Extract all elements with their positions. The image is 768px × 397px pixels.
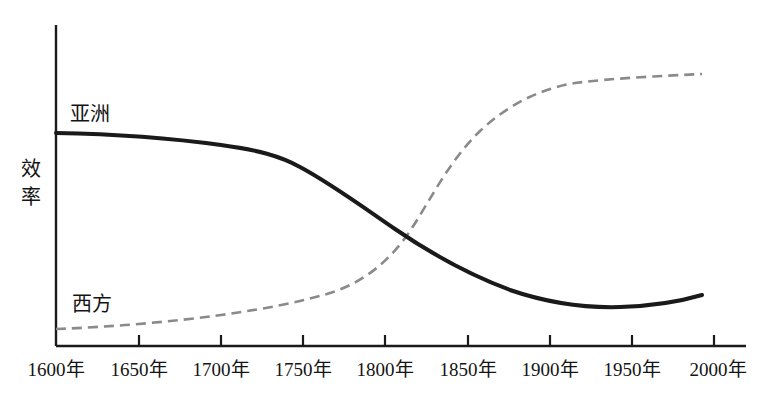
- x-tick-label-1700: 1700年: [181, 354, 261, 381]
- y-axis-label: 效率: [14, 155, 48, 211]
- asia-series-label: 亚洲: [70, 98, 110, 127]
- x-tick-label-1900: 1900年: [510, 354, 590, 381]
- x-tick-label-1750: 1750年: [263, 354, 343, 381]
- x-tick-label-1800: 1800年: [345, 354, 425, 381]
- x-tick-label-1850: 1850年: [428, 354, 508, 381]
- x-tick-label-1600: 1600年: [16, 354, 96, 381]
- chart-plot-area: [0, 0, 768, 397]
- x-axis-ticks: [139, 335, 714, 346]
- west-series-label: 西方: [72, 288, 112, 317]
- x-tick-label-1650: 1650年: [99, 354, 179, 381]
- chart-container: 效率 亚洲 西方 1600年 1650年 1700年 1750年 1800年 1…: [0, 0, 768, 397]
- x-tick-label-2000: 2000年: [678, 354, 758, 381]
- x-tick-label-1950: 1950年: [592, 354, 672, 381]
- west-series-line: [56, 74, 702, 329]
- asia-series-line: [56, 133, 702, 307]
